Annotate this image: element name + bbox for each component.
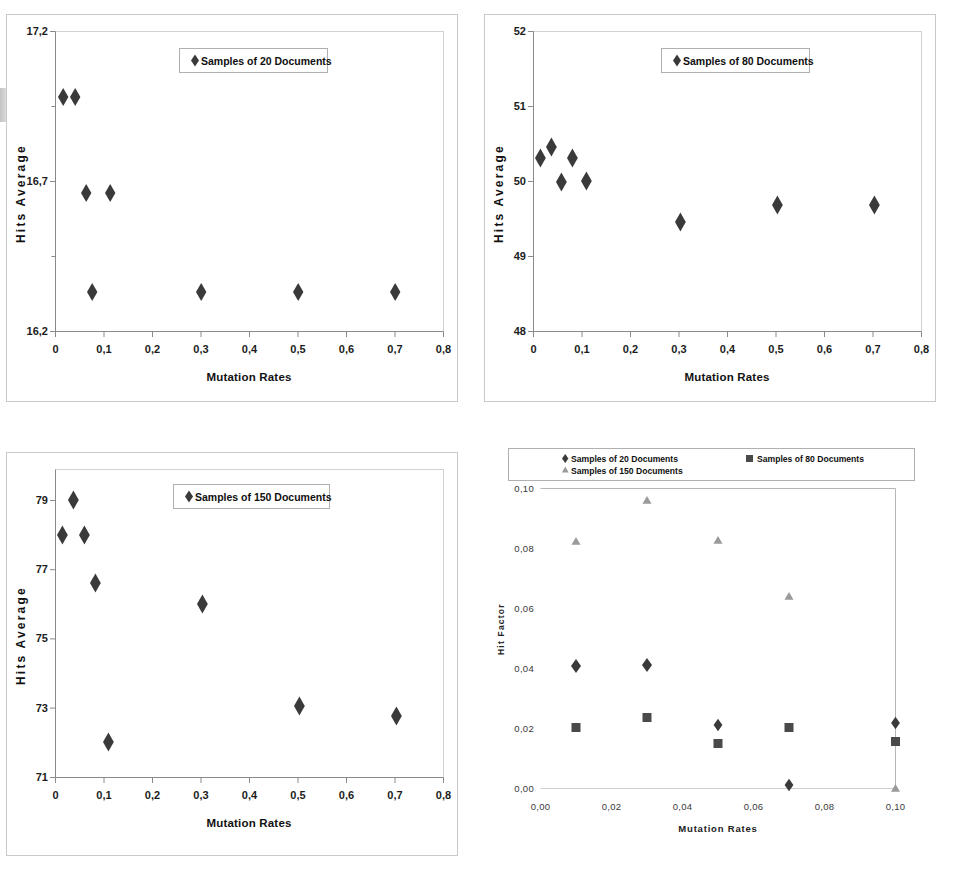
data-points-series-0 [57,491,402,752]
x-tick-label: 0,1 [96,343,111,355]
data-point [87,283,97,301]
data-point [293,283,303,301]
x-axis-title: Mutation Rates [206,371,291,383]
data-point [57,526,68,545]
y-tick-label: 52 [514,25,526,37]
plot-area-border [534,32,922,332]
y-tick-label: 71 [36,771,48,783]
y-axis-title: Hits Average [14,144,28,243]
data-point [105,184,115,202]
chart-legend[interactable]: Samples of 20 Documents Samples of 80 Do… [509,449,915,481]
legend-label: Samples of 80 Documents [757,454,864,464]
data-point [581,172,592,191]
y-tick-label: 0,02 [514,723,534,734]
chart-panel-20-documents: 17,2 16,7 16,2 Hits Average 0 0,1 0,2 0,… [6,14,458,402]
data-points-series-80 [572,713,901,748]
chart-panel-150-documents: 79 77 75 73 71 Hits Average 0 0,1 0,2 0,… [6,452,458,856]
legend-label: Samples of 150 Documents [571,466,683,476]
x-tick-label: 0,4 [242,343,258,355]
data-point [571,659,581,673]
data-point [391,707,402,726]
data-point [643,713,652,722]
x-tick-label: 0,2 [145,789,160,801]
data-point [58,88,68,106]
x-axis-title: Mutation Rates [678,823,757,834]
x-tick-label: 0,5 [290,343,305,355]
x-tick-label: 0,3 [193,343,208,355]
x-tick-label: 0,7 [387,789,402,801]
x-tick-label: 0,4 [720,343,736,355]
legend-label: Samples of 150 Documents [195,491,332,503]
x-tick-label: 0,3 [671,343,686,355]
y-tick-label: 48 [514,325,526,337]
x-tick-label: 0,7 [387,343,402,355]
chart-80-documents-svg: 52 51 50 49 48 Hits Average 0 0,1 0,2 0,… [485,15,937,403]
x-tick-label: 0,08 [815,801,835,812]
data-point [675,213,686,232]
y-tick-label: 75 [36,632,48,644]
x-tick-label: 0,4 [242,789,258,801]
legend-square-icon [746,455,753,462]
data-point [714,536,723,544]
y-tick-label: 0,00 [514,783,534,794]
x-tick-label: 0,2 [145,343,160,355]
data-point [567,149,578,168]
data-point [196,283,206,301]
y-axis-title: Hits Average [14,586,28,685]
data-point [68,491,79,510]
x-axis-title: Mutation Rates [684,371,769,383]
data-point [785,779,794,791]
y-axis-title: Hit Factor [496,603,506,655]
y-tick-label: 51 [514,100,526,112]
data-point [546,138,557,157]
data-point [390,283,400,301]
data-point [714,739,723,748]
x-tick-label: 0,6 [817,343,832,355]
y-tick-label: 0,06 [514,603,534,614]
legend-label: Samples of 80 Documents [683,55,814,67]
chart-legend[interactable]: Samples of 80 Documents [662,49,814,73]
figure-page: 17,2 16,7 16,2 Hits Average 0 0,1 0,2 0,… [0,0,956,876]
x-ticks [56,332,444,338]
plot-area-border [56,470,444,778]
data-point [891,784,900,792]
x-tick-label: 0,02 [602,801,622,812]
y-tick-label: 73 [36,702,48,714]
y-tick-label: 50 [514,175,526,187]
x-tick-label: 0,06 [744,801,764,812]
data-point [643,496,652,504]
x-tick-label: 0,1 [574,343,589,355]
y-tick-label: 77 [36,563,48,575]
x-tick-label: 0,5 [290,789,305,801]
data-point [81,184,91,202]
x-tick-label: 0,6 [339,343,354,355]
chart-hit-factor-svg: Samples of 20 Documents Samples of 80 Do… [484,440,944,860]
y-axis-title: Hits Average [492,144,506,243]
x-tick-label: 0,6 [339,789,354,801]
data-point [90,574,101,593]
data-point [294,697,305,716]
x-tick-label: 0,1 [96,789,111,801]
y-tick-label: 0,10 [514,483,534,494]
x-axis-title: Mutation Rates [206,817,291,829]
data-point [785,723,794,732]
chart-150-documents-svg: 79 77 75 73 71 Hits Average 0 0,1 0,2 0,… [7,453,459,857]
data-point [772,196,783,215]
data-point [891,737,900,746]
data-point [572,723,581,732]
chart-legend[interactable]: Samples of 20 Documents [180,49,332,73]
data-point [535,149,546,168]
data-point [79,526,90,545]
data-point [556,173,567,192]
chart-legend[interactable]: Samples of 150 Documents [174,485,332,509]
data-point [197,595,208,614]
y-ticks [50,501,56,778]
x-tick-label: 0 [530,343,536,355]
data-point [785,592,794,600]
data-points-series-0 [58,88,400,301]
y-tick-label: 0,08 [514,543,534,554]
legend-label: Samples of 20 Documents [201,55,332,67]
y-ticks [528,32,534,332]
y-tick-label: 0,04 [514,663,534,674]
legend-label: Samples of 20 Documents [571,454,678,464]
